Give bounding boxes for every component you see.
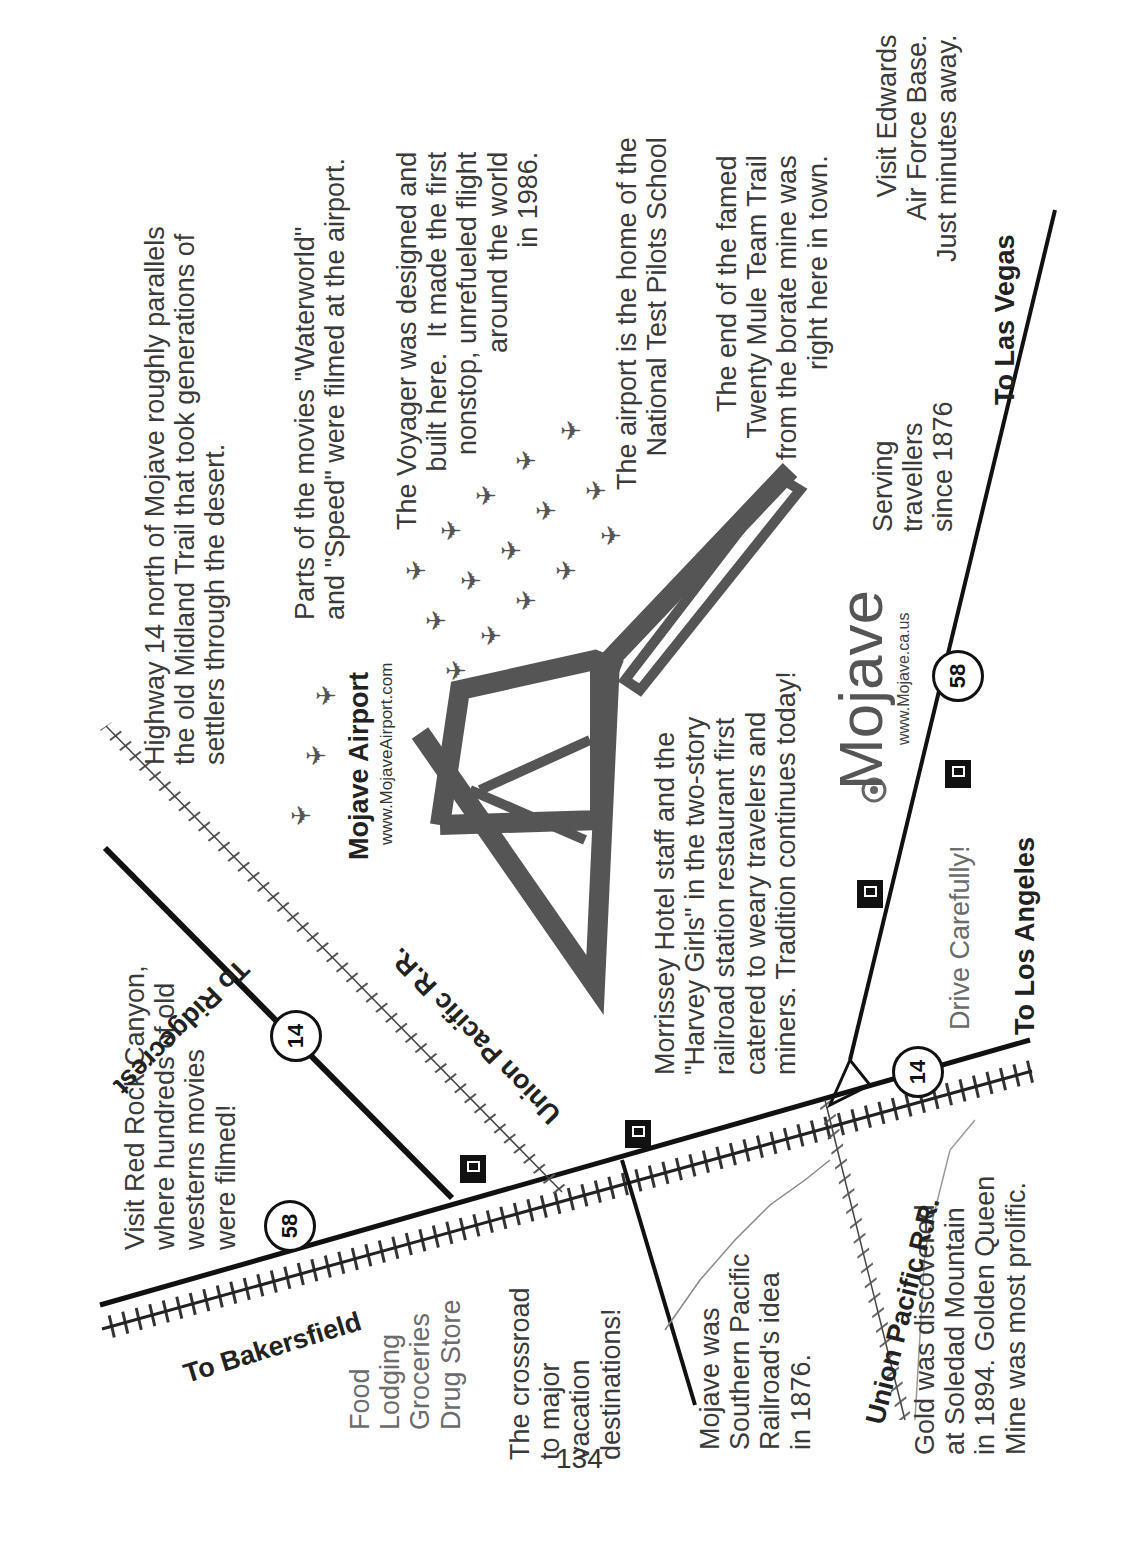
svg-text:✈: ✈: [460, 566, 482, 596]
gas-station-icon: [945, 760, 971, 788]
svg-text:✈: ✈: [515, 586, 537, 616]
note-movies: Parts of the movies "Waterworld" and "Sp…: [290, 158, 350, 620]
note-test-pilots: The airport is the home of the National …: [612, 137, 672, 490]
note-mule-team: The end of the famed Twenty Mule Team Tr…: [712, 155, 833, 460]
services-list: Food Lodging Groceries Drug Store: [345, 1299, 466, 1430]
town-tagline: Serving travellers since 1876: [868, 401, 959, 532]
page-number: 134: [556, 1443, 603, 1475]
gas-station-icon: [625, 1120, 651, 1148]
road-south: [622, 1160, 695, 1405]
svg-text:✈: ✈: [500, 536, 522, 566]
note-edwards: Visit Edwards Air Force Base. Just minut…: [872, 34, 963, 262]
note-voyager: The Voyager was designed and built here.…: [392, 152, 543, 530]
svg-text:✈: ✈: [585, 476, 607, 506]
highway-58-shield-east: 58: [932, 650, 984, 702]
highway-14-shield-ridgecrest: 14: [270, 1010, 322, 1062]
svg-text:✈: ✈: [305, 741, 327, 771]
highway-14-shield-south: 14: [892, 1046, 944, 1098]
svg-text:✈: ✈: [290, 801, 312, 831]
svg-text:✈: ✈: [600, 521, 622, 551]
gas-station-icon: [460, 1155, 486, 1183]
label-to-las-vegas: To Las Vegas: [990, 234, 1020, 405]
note-southern-pacific: Mojave was Southern Pacific Railroad's i…: [695, 1253, 816, 1450]
town-name: Mojave: [826, 590, 895, 790]
svg-text:✈: ✈: [555, 556, 577, 586]
airport-url: www.MojaveAirport.com: [377, 663, 396, 845]
svg-text:✈: ✈: [425, 606, 447, 636]
airport-name: Mojave Airport: [344, 672, 374, 860]
note-highway-14: Highway 14 north of Mojave roughly paral…: [140, 226, 231, 765]
label-to-los-angeles: To Los Angeles: [1010, 837, 1040, 1035]
svg-text:✈: ✈: [315, 681, 337, 711]
svg-text:✈: ✈: [480, 621, 502, 651]
gas-station-icon: [857, 880, 883, 908]
note-morrissey-hotel: Morrissey Hotel staff and the "Harvey Gi…: [650, 671, 801, 1075]
note-crossroad: The crossroad to major vacation destinat…: [505, 1287, 626, 1460]
drive-carefully: Drive Carefully!: [945, 845, 975, 1030]
svg-text:✈: ✈: [445, 656, 467, 686]
svg-text:✈: ✈: [560, 416, 582, 446]
highway-58-shield-west: 58: [264, 1200, 316, 1252]
svg-text:✈: ✈: [405, 556, 427, 586]
town-url: www.Mojave.ca.us: [895, 613, 913, 746]
